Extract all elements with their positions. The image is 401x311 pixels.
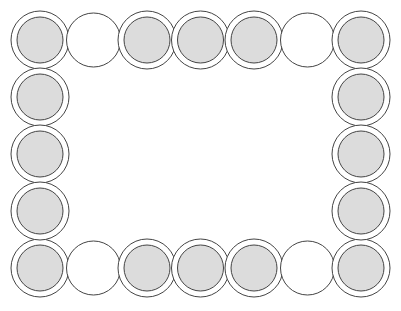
white-circle [281,13,335,67]
gray-disk [338,188,384,234]
circle-frame [0,0,401,311]
gray-disk [338,131,384,177]
gray-disk [17,131,63,177]
gray-disk [124,245,170,291]
gray-disk [231,17,277,63]
gray-disk [178,245,224,291]
gray-disk [338,245,384,291]
gray-disk [17,245,63,291]
gray-disk [17,188,63,234]
white-circle [67,13,121,67]
gray-disk [338,74,384,120]
gray-disk [17,74,63,120]
gray-disk [124,17,170,63]
gray-disk [178,17,224,63]
white-circle [67,241,121,295]
gray-disk [17,17,63,63]
gray-disk [231,245,277,291]
white-circle [281,241,335,295]
gray-disk [338,17,384,63]
